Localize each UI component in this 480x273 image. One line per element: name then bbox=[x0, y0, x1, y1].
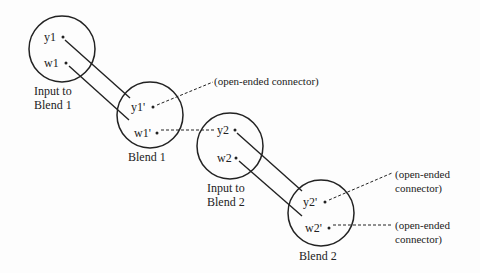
port-label-y1p: y1' bbox=[131, 101, 145, 114]
port-label-y2p: y2' bbox=[303, 196, 317, 209]
annotation-open3: (open-ended connector) bbox=[395, 218, 450, 246]
port-label-w1p: w1' bbox=[134, 127, 151, 140]
annotation-open2-line1: (open-ended bbox=[395, 167, 450, 181]
caption-blend2: Blend 2 bbox=[299, 249, 337, 263]
port-label-w1: w1 bbox=[44, 57, 59, 70]
annotation-open3-line2: connector) bbox=[395, 232, 450, 246]
connector-w1-to-w1p bbox=[69, 66, 129, 120]
annotation-open2-line2: connector) bbox=[395, 181, 450, 195]
dashed-connector-open2 bbox=[329, 173, 392, 200]
connector-y1-to-y1p bbox=[65, 40, 130, 98]
caption-input1: Input to Blend 1 bbox=[34, 84, 72, 112]
port-label-w2: w2 bbox=[217, 152, 232, 165]
caption-input1-line1: Input to bbox=[34, 84, 72, 98]
port-dot-w1p bbox=[156, 132, 159, 135]
caption-input2: Input to Blend 2 bbox=[207, 181, 245, 209]
node-circle-input2 bbox=[197, 113, 263, 179]
port-dot-w2p bbox=[328, 227, 331, 230]
port-label-y1: y1 bbox=[44, 31, 56, 44]
port-dot-y2 bbox=[234, 129, 237, 132]
blend-diagram: y1 w1 y1' w1' y2 w2 y2' w2' Input to Ble… bbox=[0, 0, 480, 273]
port-dot-y1p bbox=[152, 106, 155, 109]
caption-input1-line2: Blend 1 bbox=[34, 98, 72, 112]
caption-blend1: Blend 1 bbox=[128, 150, 166, 164]
caption-input2-line1: Input to bbox=[207, 181, 245, 195]
port-label-w2p: w2' bbox=[305, 222, 322, 235]
annotation-open2: (open-ended connector) bbox=[395, 167, 450, 195]
port-dot-y2p bbox=[324, 201, 327, 204]
port-dot-w2 bbox=[235, 157, 238, 160]
node-circle-input1 bbox=[29, 16, 95, 82]
caption-input2-line2: Blend 2 bbox=[207, 195, 245, 209]
connector-w2-to-w2p bbox=[239, 161, 302, 216]
port-dot-y1 bbox=[62, 36, 65, 39]
port-label-y2: y2 bbox=[217, 124, 229, 137]
connector-y2-to-y2p bbox=[237, 133, 302, 191]
port-dot-w1 bbox=[65, 62, 68, 65]
annotation-open3-line1: (open-ended bbox=[395, 218, 450, 232]
annotation-open1: (open-ended connector) bbox=[214, 74, 319, 88]
